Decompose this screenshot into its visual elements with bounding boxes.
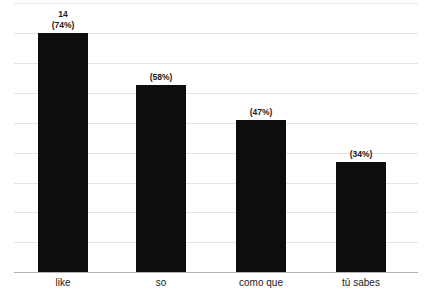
bar-value-label-como-que: (47%) bbox=[250, 107, 273, 118]
bar-percent-so: (58%) bbox=[150, 72, 173, 83]
table-row[interactable] bbox=[38, 33, 88, 272]
x-axis-label-like: like bbox=[38, 277, 88, 288]
bar-percent-como-que: (47%) bbox=[250, 107, 273, 118]
x-axis-label-como-que: como que bbox=[226, 277, 296, 288]
bar-percent-tu-sabes: (34%) bbox=[350, 149, 373, 160]
table-row[interactable] bbox=[136, 85, 186, 272]
bar-value-label-like: 14 (74%) bbox=[52, 9, 75, 31]
bar-count-like: 14 bbox=[52, 9, 75, 20]
table-row[interactable] bbox=[236, 120, 286, 272]
x-axis-label-so: so bbox=[136, 277, 186, 288]
bar-percent-like: (74%) bbox=[52, 20, 75, 31]
bars-layer: 14 (74%) (58%) (47%) (34%) bbox=[0, 0, 424, 299]
bar-value-label-tu-sabes: (34%) bbox=[350, 149, 373, 160]
table-row[interactable] bbox=[336, 162, 386, 272]
bar-value-label-so: (58%) bbox=[150, 72, 173, 83]
bar-chart: 14 (74%) (58%) (47%) (34%) bbox=[0, 0, 424, 299]
x-axis-label-tu-sabes: tú sabes bbox=[326, 277, 396, 288]
